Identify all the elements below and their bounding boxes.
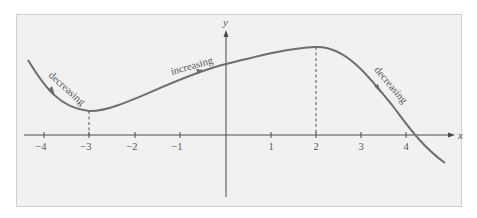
x-tick-label: 4 [403, 141, 409, 152]
x-tick-label: −3 [80, 141, 91, 152]
y-axis-label: y [222, 16, 228, 28]
x-tick-label: 3 [358, 141, 363, 152]
function-graph-figure: −4 −3 −2 −1 1 2 3 4 x y decreasi [0, 0, 477, 218]
x-tick-label: −1 [171, 141, 182, 152]
x-tick-label: −4 [35, 141, 47, 152]
x-tick-label: 2 [313, 141, 318, 152]
x-tick-label: 1 [268, 141, 273, 152]
x-tick-label: −2 [126, 141, 137, 152]
x-axis-label: x [457, 129, 463, 141]
